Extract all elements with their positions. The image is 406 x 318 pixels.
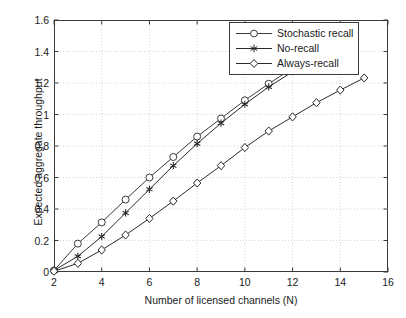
y-axis-title: Expected aggregate throughput: [32, 26, 44, 278]
x-tick-label: 14: [334, 276, 346, 288]
x-tick-label: 2: [51, 276, 57, 288]
chart-figure: 00.20.40.60.811.21.41.6 246810121416 Num…: [0, 0, 406, 318]
legend-item-stochastic-recall[interactable]: Stochastic recall: [234, 26, 353, 41]
legend-label: Always-recall: [274, 56, 339, 71]
y-tick-label: 1: [43, 109, 49, 121]
y-tick-label: 1.6: [34, 14, 49, 26]
asterisk-marker-icon: [234, 41, 274, 56]
x-axis-title: Number of licensed channels (N): [54, 294, 388, 306]
chart-legend: Stochastic recall No-recall Always-recal…: [229, 22, 359, 75]
legend-label: Stochastic recall: [274, 26, 353, 41]
diamond-marker-icon: [234, 56, 274, 71]
legend-item-always-recall[interactable]: Always-recall: [234, 56, 353, 71]
circle-marker-icon: [234, 26, 274, 41]
x-tick-label: 4: [99, 276, 105, 288]
legend-item-no-recall[interactable]: No-recall: [234, 41, 353, 56]
x-tick-label: 16: [382, 276, 394, 288]
legend-label: No-recall: [274, 41, 319, 56]
x-tick-label: 8: [194, 276, 200, 288]
x-tick-label: 12: [287, 276, 299, 288]
x-axis-tick-labels: 246810121416: [0, 276, 406, 294]
x-tick-label: 10: [239, 276, 251, 288]
x-tick-label: 6: [147, 276, 153, 288]
